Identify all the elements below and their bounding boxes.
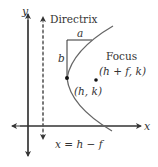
- directrix-equation: x = h − f: [55, 138, 105, 150]
- directrix-label: Directrix: [50, 13, 97, 25]
- vertex-point: [65, 76, 69, 80]
- vertex-label: (h, k): [74, 85, 102, 97]
- focus-point: [94, 78, 98, 82]
- focus-label: Focus: [106, 50, 137, 62]
- parabola-curve: [67, 26, 113, 131]
- dimension-lines: [67, 40, 92, 78]
- parabola-diagram: y x Directrix x = h − f a b (h, k) Focus…: [0, 0, 158, 167]
- focus-coords-label: (h + f, k): [99, 65, 146, 77]
- y-axis-label: y: [21, 5, 29, 18]
- dimension-b-label: b: [58, 52, 65, 64]
- dimension-a-label: a: [77, 27, 83, 39]
- x-axis-label: x: [144, 120, 151, 133]
